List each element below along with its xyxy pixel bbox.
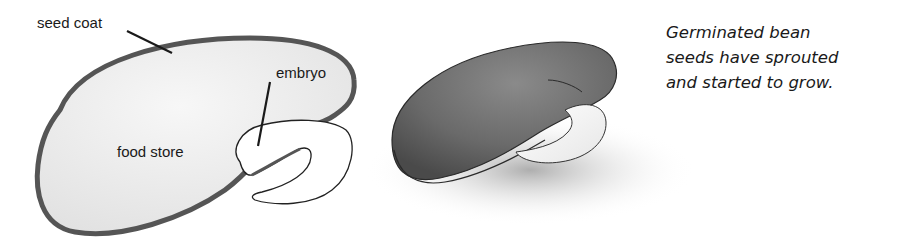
caption-line-2: seeds have sprouted <box>666 45 906 70</box>
food-store-label: food store <box>117 143 184 160</box>
seed-cross-section <box>37 31 354 234</box>
caption-line-3: and started to grow. <box>666 70 906 95</box>
embryo-label: embryo <box>276 64 326 81</box>
bean-seed-diagram: seed coat embryo food store Germinated b… <box>0 0 907 251</box>
caption: Germinated bean seeds have sprouted and … <box>666 20 906 95</box>
seed-coat-label: seed coat <box>37 14 102 31</box>
embryo-shape <box>236 120 352 203</box>
germinated-seed <box>365 42 695 225</box>
caption-line-1: Germinated bean <box>666 20 906 45</box>
